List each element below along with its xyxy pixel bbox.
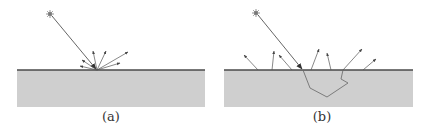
panel-b-caption: (b) (313, 109, 331, 124)
exit-rays (244, 49, 376, 70)
panel-a-caption: (a) (102, 109, 120, 124)
panel-a-surface-reflection (17, 10, 205, 107)
diagram-canvas (0, 0, 425, 132)
material-block (224, 70, 413, 107)
material-block (17, 70, 205, 107)
panel-b-subsurface-scattering (224, 9, 413, 107)
reflected-rays (80, 51, 128, 70)
incident-ray (52, 16, 96, 69)
incident-ray (258, 15, 302, 69)
